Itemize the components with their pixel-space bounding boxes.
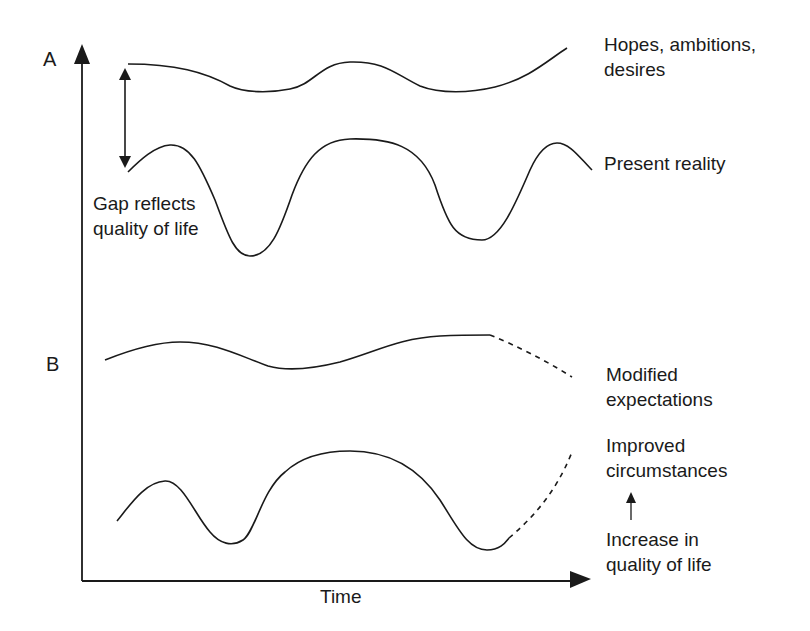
annotation-gap-line2: quality of life xyxy=(93,216,199,241)
label-present-reality: Present reality xyxy=(604,151,725,176)
label-modified-line1: Modified xyxy=(606,362,713,387)
annotation-gap: Gap reflects quality of life xyxy=(93,191,199,241)
x-axis-arrowhead-icon xyxy=(570,571,591,588)
curve-modified-expectations-projection xyxy=(490,335,572,377)
label-modified-expectations: Modified expectations xyxy=(606,362,713,412)
panel-label-b: B xyxy=(46,353,59,376)
label-hopes-line2: desires xyxy=(604,57,756,82)
label-hopes-line1: Hopes, ambitions, xyxy=(604,32,756,57)
panel-label-a: A xyxy=(43,48,56,71)
curve-improved-circumstances-projection xyxy=(509,452,572,538)
increase-arrow xyxy=(626,492,636,520)
gap-double-arrow xyxy=(119,68,131,168)
label-improved-line2: circumstances xyxy=(606,458,727,483)
curve-improved-circumstances xyxy=(117,451,509,550)
label-increase-line1: Increase in xyxy=(606,527,712,552)
label-increase-in-quality-of-life: Increase in quality of life xyxy=(606,527,712,577)
arrow-down-icon xyxy=(119,156,131,168)
annotation-gap-line1: Gap reflects xyxy=(93,191,199,216)
label-improved-circumstances: Improved circumstances xyxy=(606,433,727,483)
label-increase-line2: quality of life xyxy=(606,552,712,577)
arrow-up-icon xyxy=(119,68,131,80)
y-axis xyxy=(74,44,90,581)
curve-hopes-ambitions-desires xyxy=(128,48,567,92)
label-hopes-ambitions-desires: Hopes, ambitions, desires xyxy=(604,32,756,82)
x-axis-label: Time xyxy=(320,584,362,609)
y-axis-arrowhead-icon xyxy=(74,44,90,64)
curve-modified-expectations xyxy=(105,335,490,369)
label-modified-line2: expectations xyxy=(606,387,713,412)
label-improved-line1: Improved xyxy=(606,433,727,458)
arrow-up-icon xyxy=(626,492,636,503)
